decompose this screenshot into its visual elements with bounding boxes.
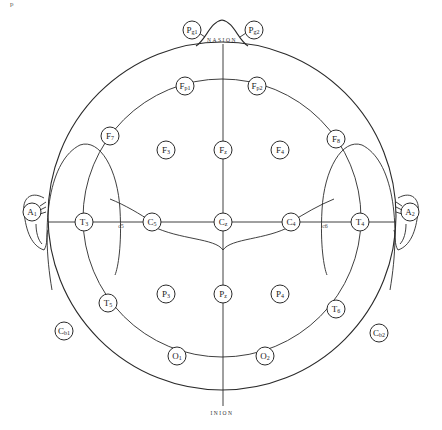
c5-minor-label: c5 (118, 223, 124, 229)
electrode-cz: Cz (214, 213, 232, 231)
electrode-t3: T3 (75, 213, 93, 231)
electrode-cb1: Cb1 (55, 322, 73, 340)
electrode-f3: F3 (157, 141, 175, 159)
electrode-f7: F7 (101, 127, 119, 145)
electrode-t4: T4 (351, 213, 369, 231)
inion-label: INION (210, 410, 233, 416)
electrode-pz: Pz (214, 285, 232, 303)
electrode-pg2: Pg2 (245, 21, 263, 39)
electrode-f8: F8 (327, 130, 345, 148)
electrode-fp2: Fp2 (248, 77, 266, 95)
electrode-f4: F4 (271, 141, 289, 159)
electrode-t5: T5 (99, 294, 117, 312)
electrode-p4: P4 (271, 285, 289, 303)
electrode-c4: C4 (282, 213, 300, 231)
electrode-pg1: Pg1 (183, 21, 201, 39)
nasion-label: NASION (207, 37, 237, 43)
electrode-c5: C5 (143, 213, 161, 231)
corner-mark: p (10, 0, 14, 8)
electrode-t6: T6 (327, 300, 345, 318)
eeg-10-20-electrode-diagram: p NASION INION c5 c6 Pg1 Pg2 (0, 0, 442, 430)
pg2-connector (240, 33, 246, 37)
electrode-fz: Fz (214, 141, 232, 159)
c6-minor-label: c6 (322, 223, 328, 229)
electrode-a2: A2 (401, 203, 419, 221)
electrode-p3: P3 (157, 285, 175, 303)
electrode-o2: O2 (256, 347, 274, 365)
electrode-fp1: Fp1 (176, 77, 194, 95)
electrode-a1: A1 (23, 203, 41, 221)
electrode-o1: O1 (168, 347, 186, 365)
electrode-cb2: Cb2 (370, 324, 388, 342)
